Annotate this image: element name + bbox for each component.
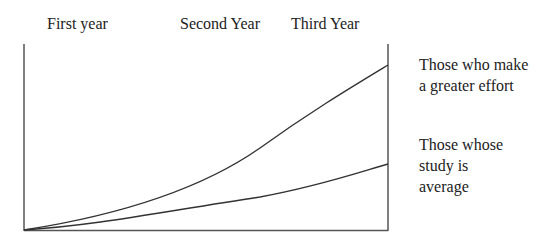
growth-chart bbox=[0, 0, 545, 248]
legend-average-line2: study is bbox=[419, 155, 503, 176]
legend-average-line3: average bbox=[419, 176, 503, 197]
legend-effort-line2: a greater effort bbox=[419, 75, 528, 96]
legend-effort-line1: Those who make bbox=[419, 54, 528, 75]
legend-average: Those whose study is average bbox=[419, 134, 503, 197]
legend-effort: Those who make a greater effort bbox=[419, 54, 528, 96]
legend-average-line1: Those whose bbox=[419, 134, 503, 155]
